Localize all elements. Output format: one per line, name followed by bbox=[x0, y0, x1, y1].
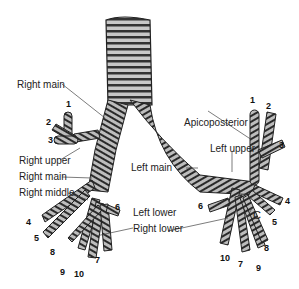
trachea bbox=[106, 17, 152, 105]
label-right-main-lower: Right main bbox=[19, 172, 67, 182]
label-right-middle: Right middle bbox=[19, 188, 75, 198]
label-right-main-top: Right main bbox=[17, 80, 65, 90]
right-segment-7: 7 bbox=[95, 256, 100, 265]
label-right-upper: Right upper bbox=[19, 156, 71, 166]
left-segment-1: 1 bbox=[250, 96, 255, 105]
label-apicoposterior: Apicoposterior bbox=[184, 118, 248, 128]
right-segment-5: 5 bbox=[34, 234, 39, 243]
right-segment-1: 1 bbox=[66, 100, 71, 109]
right-segment-8: 8 bbox=[50, 248, 55, 257]
left-segment-3: 3 bbox=[279, 141, 284, 150]
right-segment-9: 9 bbox=[60, 268, 65, 277]
label-left-lower: Left lower bbox=[133, 208, 176, 218]
right-segment-4: 4 bbox=[26, 218, 31, 227]
left-segment-4: 4 bbox=[285, 197, 290, 206]
left-segment-6: 6 bbox=[198, 202, 203, 211]
left-segment-9: 9 bbox=[256, 264, 261, 273]
label-left-main: Left main bbox=[131, 163, 172, 173]
right-segment-3: 3 bbox=[48, 136, 53, 145]
bronchial-tree-diagram: Right main Right upper Right main Right … bbox=[0, 0, 299, 289]
right-segment-10: 10 bbox=[74, 270, 84, 279]
right-segment-2: 2 bbox=[46, 118, 51, 127]
left-segment-2: 2 bbox=[266, 102, 271, 111]
left-segment-10: 10 bbox=[220, 254, 230, 263]
right-segment-6: 6 bbox=[115, 203, 120, 212]
label-left-upper: Left upper bbox=[210, 144, 255, 154]
left-segment-7: 7 bbox=[238, 260, 243, 269]
label-right-lower: Right lower bbox=[133, 224, 183, 234]
right-main-bronchus bbox=[88, 100, 128, 192]
left-segment-5: 5 bbox=[272, 218, 277, 227]
label-c: C bbox=[253, 210, 261, 221]
left-segment-8: 8 bbox=[264, 244, 269, 253]
right-upper-branches bbox=[52, 112, 100, 144]
